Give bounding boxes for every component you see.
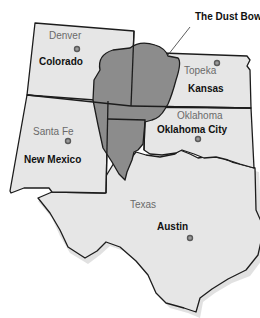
new-mexico-shape: [10, 95, 108, 193]
dust-bowl-callout-line: [168, 27, 190, 55]
austin-label: Austin: [157, 222, 188, 232]
austin-dot: [188, 236, 193, 241]
colorado-label: Colorado: [39, 57, 83, 67]
denver-label: Denver: [49, 31, 81, 41]
texas-label: Texas: [130, 200, 156, 210]
santa-fe-label: Santa Fe: [33, 127, 74, 137]
oklahoma-city-label: Oklahoma City: [157, 125, 227, 135]
oklahoma-city-dot: [196, 137, 201, 142]
oklahoma-label: Oklahoma: [177, 111, 223, 121]
denver-dot: [75, 47, 80, 52]
new-mexico-label: New Mexico: [24, 155, 81, 165]
topeka-label: Topeka: [184, 66, 216, 76]
dust-bowl-title: The Dust Bowl: [195, 12, 260, 22]
kansas-label: Kansas: [188, 84, 224, 94]
santa-fe-dot: [66, 139, 71, 144]
